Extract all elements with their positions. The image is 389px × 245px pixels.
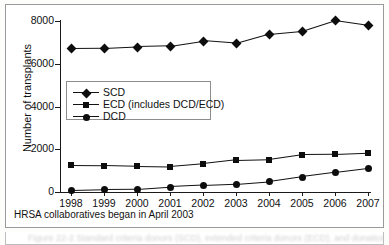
square-marker-icon xyxy=(83,102,89,108)
data-point xyxy=(134,186,141,193)
figure-caption-strip: Figure 22-2 Standard criteria donors (SC… xyxy=(5,232,384,245)
data-point xyxy=(233,181,240,188)
circle-marker-icon xyxy=(83,114,90,121)
data-point xyxy=(266,178,273,185)
legend-label-dcd: DCD xyxy=(103,110,126,122)
data-point xyxy=(365,165,372,172)
diamond-marker-icon xyxy=(81,88,91,98)
series-segment xyxy=(236,181,269,185)
data-point xyxy=(200,182,207,189)
series-segment xyxy=(203,184,236,187)
data-point xyxy=(167,184,174,191)
figure-container: Number of transplants 02000400060008000 … xyxy=(0,0,389,245)
chart-legend: SCD ECD (includes DCD/ECD) DCD xyxy=(66,81,211,120)
series-segment xyxy=(170,185,203,188)
series-segment xyxy=(302,172,335,178)
data-point xyxy=(68,187,75,194)
chart-plot-area: Number of transplants 02000400060008000 … xyxy=(0,0,389,245)
series-segment xyxy=(269,176,302,182)
chart-footnote: HRSA collaboratives began in April 2003 xyxy=(14,209,194,220)
data-point xyxy=(101,186,108,193)
legend-label-ecd: ECD (includes DCD/ECD) xyxy=(103,98,224,110)
data-point xyxy=(299,174,306,181)
series-segment xyxy=(335,168,368,173)
legend-label-scd: SCD xyxy=(103,86,125,98)
series-segment xyxy=(104,189,137,191)
figure-caption: Figure 22-2 Standard criteria donors (SC… xyxy=(28,233,384,243)
series-segment xyxy=(71,189,104,191)
series-segment xyxy=(137,186,170,189)
data-point xyxy=(332,169,339,176)
